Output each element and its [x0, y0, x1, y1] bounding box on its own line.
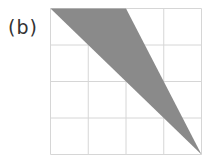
grid-diagram — [0, 0, 211, 156]
